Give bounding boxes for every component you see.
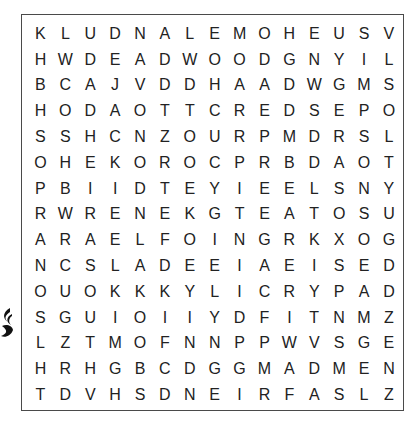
letter-cell-r10-c12[interactable]: I bbox=[302, 253, 327, 279]
letter-cell-r7-c9[interactable]: I bbox=[227, 176, 252, 202]
letter-cell-r13-c13[interactable]: S bbox=[327, 331, 352, 357]
letter-cell-r10-c1[interactable]: N bbox=[28, 253, 53, 279]
letter-cell-r11-c14[interactable]: A bbox=[352, 279, 377, 305]
letter-cell-r13-c2[interactable]: Z bbox=[53, 331, 78, 357]
letter-cell-r6-c14[interactable]: O bbox=[352, 150, 377, 176]
letter-cell-r10-c9[interactable]: I bbox=[227, 253, 252, 279]
letter-cell-r6-c10[interactable]: R bbox=[252, 150, 277, 176]
letter-cell-r5-c4[interactable]: C bbox=[103, 124, 128, 150]
letter-cell-r6-c1[interactable]: O bbox=[28, 150, 53, 176]
letter-cell-r7-c3[interactable]: I bbox=[78, 176, 103, 202]
letter-cell-r14-c5[interactable]: B bbox=[128, 356, 153, 382]
letter-cell-r1-c7[interactable]: L bbox=[177, 21, 202, 47]
letter-cell-r8-c2[interactable]: W bbox=[53, 202, 78, 228]
letter-cell-r1-c3[interactable]: U bbox=[78, 21, 103, 47]
letter-cell-r3-c6[interactable]: D bbox=[152, 73, 177, 99]
letter-cell-r3-c12[interactable]: W bbox=[302, 73, 327, 99]
letter-cell-r4-c10[interactable]: E bbox=[252, 98, 277, 124]
letter-cell-r7-c7[interactable]: E bbox=[177, 176, 202, 202]
letter-cell-r2-c3[interactable]: D bbox=[78, 47, 103, 73]
letter-cell-r10-c8[interactable]: E bbox=[202, 253, 227, 279]
letter-cell-r7-c11[interactable]: E bbox=[277, 176, 302, 202]
letter-cell-r1-c9[interactable]: M bbox=[227, 21, 252, 47]
letter-cell-r2-c4[interactable]: E bbox=[103, 47, 128, 73]
letter-cell-r13-c3[interactable]: T bbox=[78, 331, 103, 357]
letter-cell-r13-c6[interactable]: F bbox=[152, 331, 177, 357]
letter-cell-r6-c7[interactable]: O bbox=[177, 150, 202, 176]
letter-cell-r15-c12[interactable]: A bbox=[302, 382, 327, 408]
letter-cell-r14-c12[interactable]: D bbox=[302, 356, 327, 382]
letter-cell-r4-c3[interactable]: D bbox=[78, 98, 103, 124]
letter-cell-r15-c6[interactable]: D bbox=[152, 382, 177, 408]
letter-cell-r6-c9[interactable]: P bbox=[227, 150, 252, 176]
letter-cell-r5-c11[interactable]: M bbox=[277, 124, 302, 150]
letter-cell-r14-c1[interactable]: H bbox=[28, 356, 53, 382]
letter-cell-r12-c1[interactable]: S bbox=[28, 305, 53, 331]
letter-cell-r8-c13[interactable]: O bbox=[327, 202, 352, 228]
letter-cell-r11-c5[interactable]: K bbox=[128, 279, 153, 305]
letter-cell-r14-c13[interactable]: M bbox=[327, 356, 352, 382]
letter-cell-r13-c1[interactable]: L bbox=[28, 331, 53, 357]
letter-cell-r14-c15[interactable]: N bbox=[376, 356, 401, 382]
letter-cell-r12-c12[interactable]: T bbox=[302, 305, 327, 331]
letter-cell-r3-c8[interactable]: H bbox=[202, 73, 227, 99]
letter-cell-r11-c4[interactable]: K bbox=[103, 279, 128, 305]
letter-cell-r2-c12[interactable]: N bbox=[302, 47, 327, 73]
letter-cell-r5-c8[interactable]: U bbox=[202, 124, 227, 150]
letter-cell-r4-c11[interactable]: D bbox=[277, 98, 302, 124]
letter-cell-r7-c6[interactable]: T bbox=[152, 176, 177, 202]
letter-cell-r7-c1[interactable]: P bbox=[28, 176, 53, 202]
letter-cell-r4-c12[interactable]: S bbox=[302, 98, 327, 124]
letter-cell-r9-c1[interactable]: A bbox=[28, 227, 53, 253]
letter-cell-r2-c11[interactable]: G bbox=[277, 47, 302, 73]
letter-cell-r11-c13[interactable]: P bbox=[327, 279, 352, 305]
letter-cell-r3-c14[interactable]: M bbox=[352, 73, 377, 99]
letter-cell-r4-c13[interactable]: E bbox=[327, 98, 352, 124]
letter-cell-r10-c11[interactable]: E bbox=[277, 253, 302, 279]
letter-cell-r13-c10[interactable]: P bbox=[252, 331, 277, 357]
letter-cell-r4-c2[interactable]: O bbox=[53, 98, 78, 124]
letter-cell-r8-c6[interactable]: E bbox=[152, 202, 177, 228]
letter-cell-r3-c7[interactable]: D bbox=[177, 73, 202, 99]
letter-cell-r2-c5[interactable]: A bbox=[128, 47, 153, 73]
letter-cell-r2-c10[interactable]: D bbox=[252, 47, 277, 73]
letter-cell-r7-c4[interactable]: I bbox=[103, 176, 128, 202]
letter-cell-r6-c5[interactable]: O bbox=[128, 150, 153, 176]
letter-cell-r15-c7[interactable]: N bbox=[177, 382, 202, 408]
letter-cell-r5-c5[interactable]: N bbox=[128, 124, 153, 150]
letter-cell-r11-c1[interactable]: O bbox=[28, 279, 53, 305]
letter-cell-r2-c8[interactable]: O bbox=[202, 47, 227, 73]
letter-cell-r15-c13[interactable]: S bbox=[327, 382, 352, 408]
letter-cell-r5-c10[interactable]: P bbox=[252, 124, 277, 150]
letter-cell-r12-c7[interactable]: I bbox=[177, 305, 202, 331]
letter-cell-r11-c8[interactable]: L bbox=[202, 279, 227, 305]
letter-cell-r10-c15[interactable]: D bbox=[376, 253, 401, 279]
letter-cell-r7-c15[interactable]: Y bbox=[376, 176, 401, 202]
letter-cell-r8-c8[interactable]: G bbox=[202, 202, 227, 228]
letter-cell-r8-c1[interactable]: R bbox=[28, 202, 53, 228]
letter-cell-r12-c11[interactable]: I bbox=[277, 305, 302, 331]
letter-cell-r8-c11[interactable]: A bbox=[277, 202, 302, 228]
letter-cell-r9-c12[interactable]: K bbox=[302, 227, 327, 253]
letter-cell-r10-c5[interactable]: A bbox=[128, 253, 153, 279]
letter-cell-r5-c15[interactable]: L bbox=[376, 124, 401, 150]
letter-cell-r2-c2[interactable]: W bbox=[53, 47, 78, 73]
letter-cell-r11-c3[interactable]: O bbox=[78, 279, 103, 305]
letter-cell-r4-c6[interactable]: T bbox=[152, 98, 177, 124]
letter-cell-r15-c11[interactable]: F bbox=[277, 382, 302, 408]
letter-cell-r3-c10[interactable]: A bbox=[252, 73, 277, 99]
letter-cell-r3-c9[interactable]: A bbox=[227, 73, 252, 99]
letter-cell-r5-c14[interactable]: S bbox=[352, 124, 377, 150]
letter-cell-r11-c6[interactable]: K bbox=[152, 279, 177, 305]
letter-cell-r10-c3[interactable]: S bbox=[78, 253, 103, 279]
letter-cell-r10-c6[interactable]: D bbox=[152, 253, 177, 279]
letter-cell-r9-c14[interactable]: O bbox=[352, 227, 377, 253]
letter-cell-r2-c13[interactable]: Y bbox=[327, 47, 352, 73]
letter-cell-r4-c15[interactable]: O bbox=[376, 98, 401, 124]
letter-cell-r12-c3[interactable]: U bbox=[78, 305, 103, 331]
letter-cell-r9-c13[interactable]: X bbox=[327, 227, 352, 253]
letter-cell-r14-c11[interactable]: A bbox=[277, 356, 302, 382]
letter-cell-r10-c13[interactable]: S bbox=[327, 253, 352, 279]
letter-cell-r13-c7[interactable]: N bbox=[177, 331, 202, 357]
letter-cell-r9-c4[interactable]: E bbox=[103, 227, 128, 253]
